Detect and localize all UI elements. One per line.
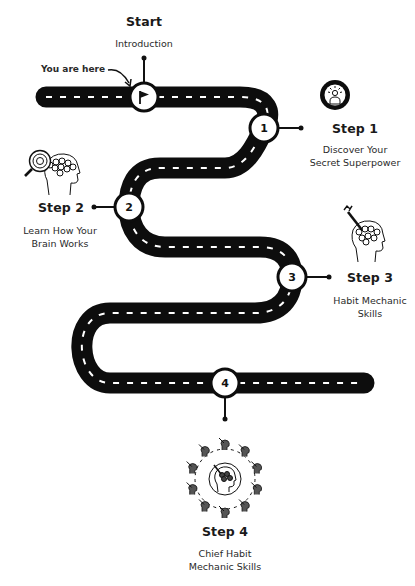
satellite-head-icon [219, 438, 229, 450]
step1-title: Step 1 [320, 121, 390, 136]
start-node[interactable] [130, 83, 158, 111]
step4-number: 4 [221, 377, 229, 390]
step1-line2: Secret Superpower [295, 156, 415, 169]
step2-number: 2 [125, 201, 133, 214]
step1-number: 1 [260, 122, 268, 135]
step2-line1: Learn How Your [10, 224, 110, 237]
start-title: Start [114, 14, 174, 29]
start-connector-dot [142, 56, 147, 61]
step1-connector-dot [299, 126, 304, 131]
satellite-head-icon [199, 500, 209, 512]
brain-magnifier-icon [25, 151, 80, 196]
step4-connector-dot [223, 417, 228, 422]
satellite-head-icon [251, 483, 261, 495]
you-are-here-arrow [108, 70, 129, 83]
step3-node[interactable]: 3 [278, 263, 306, 291]
step2-title: Step 2 [26, 200, 96, 215]
roadmap-svg: 1 2 3 4 [0, 0, 415, 586]
superpower-person-icon [320, 80, 350, 110]
step4-title: Step 4 [190, 524, 260, 539]
step3-connector-dot [327, 275, 332, 280]
step3-title: Step 3 [335, 270, 405, 285]
satellite-head-icon [239, 500, 249, 512]
step4-node[interactable]: 4 [211, 369, 239, 397]
satellite-head-icon [239, 445, 249, 457]
roadmap-diagram: 1 2 3 4 [0, 0, 415, 586]
team-network-icon [187, 438, 262, 518]
step3-line1: Habit Mechanic [320, 294, 415, 307]
satellite-head-icon [199, 445, 209, 457]
step3-line2: Skills [320, 307, 415, 320]
step4-line2: Mechanic Skills [170, 560, 280, 573]
satellite-head-icon [187, 483, 197, 495]
step3-description: Habit Mechanic Skills [320, 294, 415, 320]
step4-description: Chief Habit Mechanic Skills [170, 547, 280, 573]
you-are-here-label: You are here [38, 63, 108, 76]
step1-node[interactable]: 1 [250, 114, 278, 142]
step2-line2: Brain Works [10, 237, 110, 250]
satellite-head-icon [187, 462, 197, 474]
step3-number: 3 [288, 271, 296, 284]
brain-wrench-icon [344, 206, 385, 262]
step2-description: Learn How Your Brain Works [10, 224, 110, 250]
satellite-head-icon [219, 506, 229, 518]
step4-line1: Chief Habit [170, 547, 280, 560]
start-subtitle: Introduction [104, 37, 184, 50]
step1-line1: Discover Your [295, 143, 415, 156]
step2-node[interactable]: 2 [115, 193, 143, 221]
step1-description: Discover Your Secret Superpower [295, 143, 415, 169]
